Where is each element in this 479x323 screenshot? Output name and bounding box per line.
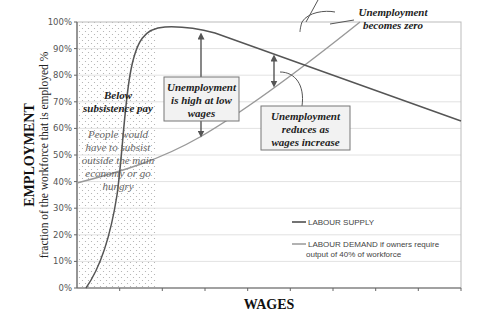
y-axis-label: EMPLOYMENT [22,103,37,207]
annotation-box2-line3: wages increase [271,136,339,148]
annotation-box1-line1: Unemployment [167,81,237,93]
below-note-line3: outside the main [82,154,155,166]
y-axis-sublabel: fraction of the workforce that is employ… [38,51,51,258]
y-axis-tick-labels: 100% 90% 80% 70% 60% 50% 40% 30% 20% 10%… [48,17,72,293]
employment-wages-chart: 100% 90% 80% 70% 60% 50% 40% 30% 20% 10%… [0,0,479,323]
svg-text:10%: 10% [53,256,72,266]
x-axis-label: WAGES [244,297,295,312]
svg-text:20%: 20% [53,230,72,240]
below-note-line2: have to subsist [86,141,152,153]
annotation-zero-line1: Unemployment [358,6,428,18]
svg-text:50%: 50% [53,150,72,160]
below-note-line1: People would [87,128,149,140]
below-note-line5: hungry [102,180,133,192]
legend: LABOUR SUPPLY LABOUR DEMAND if owners re… [292,218,440,259]
svg-text:0%: 0% [59,283,73,293]
svg-text:70%: 70% [53,97,72,107]
svg-text:40%: 40% [53,177,72,187]
svg-text:60%: 60% [53,123,72,133]
legend-demand-label-2: output of 40% of workforce [306,250,402,259]
zero-connector-3 [306,0,318,22]
legend-supply-label: LABOUR SUPPLY [308,218,375,227]
below-note-line4: economy or go [85,167,151,179]
svg-text:100%: 100% [48,17,72,27]
box2-connector [280,72,303,106]
annotation-box2-line1: Unemployment [271,110,341,122]
annotation-zero-line2: becomes zero [363,19,424,31]
svg-text:90%: 90% [53,44,72,54]
below-subsistence-title-1: Below [103,89,133,101]
annotation-box1-line3: wages [188,107,216,119]
svg-text:80%: 80% [53,70,72,80]
annotation-box1-line2: is high at low [171,94,232,106]
annotation-box2-line2: reduces as [282,123,329,135]
below-subsistence-title-2: subsistence pay [82,102,153,114]
svg-text:30%: 30% [53,203,72,213]
legend-demand-label-1: LABOUR DEMAND if owners require [308,240,440,249]
